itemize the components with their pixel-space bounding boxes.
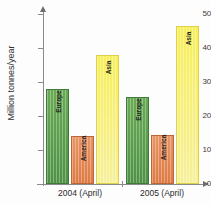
bar-america-2005[interactable]: America	[151, 135, 174, 184]
y-tick-0	[38, 184, 44, 185]
bar-asia-2005[interactable]: Asia	[176, 26, 199, 184]
x-group-label-2005: 2005 (April)	[122, 188, 202, 198]
bar-label-asia-2004: Asia	[104, 61, 111, 75]
bar-asia-2004[interactable]: Asia	[96, 55, 119, 184]
bar-label-america-2004: America	[79, 136, 86, 162]
bar-europe-2005[interactable]: Europe	[126, 97, 149, 184]
bar-america-2004[interactable]: America	[71, 136, 94, 184]
bar-chart: Million tonnes/year 50 40 30 20 10 0 Eur…	[0, 0, 211, 203]
bar-label-europe-2004: Europe	[54, 90, 61, 112]
bar-europe-2004[interactable]: Europe	[46, 89, 69, 184]
bar-label-america-2005: America	[159, 135, 166, 161]
y-axis-title: Million tonnes/year	[6, 18, 16, 148]
plot-area: Europe America Asia Europe America Asia	[44, 10, 206, 184]
x-group-separator-tick	[122, 181, 123, 187]
bar-label-europe-2005: Europe	[134, 98, 141, 120]
bar-label-asia-2005: Asia	[184, 32, 191, 46]
x-group-label-2004: 2004 (April)	[40, 188, 120, 198]
